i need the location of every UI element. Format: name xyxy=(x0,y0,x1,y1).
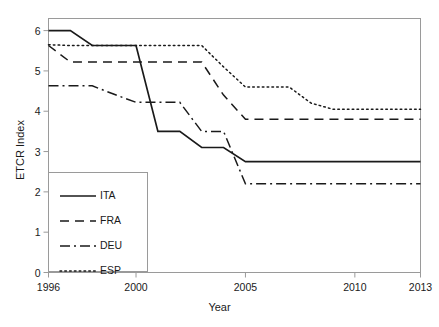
x-tick-label-2000: 2000 xyxy=(124,281,147,293)
x-axis-title: Year xyxy=(0,301,439,313)
series-line-deu xyxy=(49,86,421,184)
chart-figure: ETCR Index Year 19962000200520102013 012… xyxy=(0,0,439,327)
legend-box xyxy=(49,173,148,272)
series-line-fra xyxy=(49,46,421,120)
y-tick-label-6: 6 xyxy=(21,25,41,37)
plot-canvas xyxy=(0,0,439,327)
x-tick-label-1996: 1996 xyxy=(37,281,60,293)
y-tick-label-5: 5 xyxy=(21,65,41,77)
series-line-esp xyxy=(49,45,421,110)
x-tick-label-2010: 2010 xyxy=(343,281,366,293)
y-tick-label-2: 2 xyxy=(21,186,41,198)
y-tick-label-3: 3 xyxy=(21,146,41,158)
y-tick-label-4: 4 xyxy=(21,105,41,117)
series-line-ita xyxy=(49,31,421,162)
y-axis-tickmarks xyxy=(44,31,49,273)
legend-label-ita: ITA xyxy=(100,189,116,201)
legend-label-fra: FRA xyxy=(100,214,121,226)
legend-label-esp: ESP xyxy=(100,264,121,276)
legend-label-deu: DEU xyxy=(100,239,122,251)
x-tick-label-2013: 2013 xyxy=(409,281,432,293)
x-tick-label-2005: 2005 xyxy=(234,281,257,293)
data-series-layer xyxy=(49,31,421,184)
y-tick-label-0: 0 xyxy=(21,267,41,279)
y-tick-label-1: 1 xyxy=(21,226,41,238)
